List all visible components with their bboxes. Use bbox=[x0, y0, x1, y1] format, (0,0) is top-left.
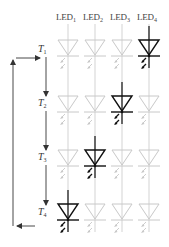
led-lit-icon bbox=[138, 26, 160, 69]
led-lit-icon bbox=[57, 190, 79, 233]
led-sequence-diagram: LED1LED2LED3LED4T1T2T3T4 bbox=[0, 0, 169, 247]
diagram-canvas bbox=[0, 0, 169, 247]
led-lit-icon bbox=[111, 82, 133, 125]
led-lit-icon bbox=[84, 136, 106, 179]
